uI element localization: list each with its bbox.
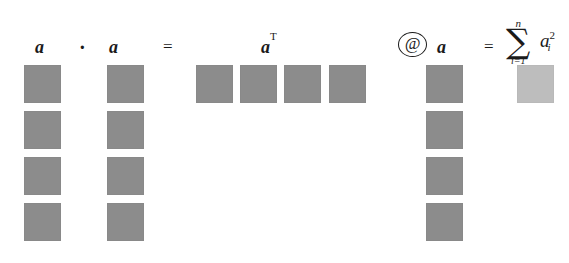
vector-cell bbox=[24, 157, 61, 195]
label-vector-a-third: a bbox=[437, 38, 446, 56]
vector-cell bbox=[107, 65, 144, 103]
vector-cell bbox=[284, 65, 321, 103]
vector-cell bbox=[426, 203, 463, 241]
transpose-base: a bbox=[261, 37, 270, 57]
equals-sign-first: = bbox=[163, 38, 173, 55]
vector-cell bbox=[329, 65, 366, 103]
vector-cell bbox=[24, 111, 61, 149]
vector-dot-product-diagram: a · a = aT @ a = n ∑ i=1 ai2 bbox=[0, 0, 569, 263]
summation-term: ai2 bbox=[540, 31, 558, 50]
sigma-icon: ∑ bbox=[506, 28, 530, 56]
summation-term-exponent: 2 bbox=[550, 29, 556, 41]
vector-cell bbox=[107, 111, 144, 149]
vector-cell bbox=[196, 65, 233, 103]
summation-expression: n ∑ i=1 ai2 bbox=[506, 18, 530, 66]
label-vector-a-transpose: aT bbox=[261, 38, 277, 56]
vector-cell bbox=[426, 111, 463, 149]
matmul-operator-glyph: @ bbox=[405, 34, 421, 54]
matmul-operator-icon: @ bbox=[398, 32, 427, 57]
vector-cell bbox=[24, 203, 61, 241]
summation-term-subscript: i bbox=[548, 41, 551, 53]
vector-cell bbox=[107, 203, 144, 241]
label-vector-a-second: a bbox=[109, 38, 118, 56]
vector-cell bbox=[240, 65, 277, 103]
vector-cell bbox=[107, 157, 144, 195]
result-cell bbox=[517, 65, 554, 103]
vector-cell bbox=[24, 65, 61, 103]
transpose-exponent: T bbox=[270, 30, 277, 42]
dot-operator: · bbox=[79, 37, 86, 57]
vector-cell bbox=[426, 65, 463, 103]
equals-sign-second: = bbox=[484, 38, 494, 55]
vector-cell bbox=[426, 157, 463, 195]
label-vector-a-first: a bbox=[35, 38, 44, 56]
